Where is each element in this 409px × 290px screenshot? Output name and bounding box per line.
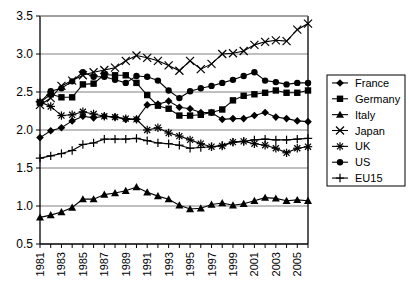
data-point-marker-circle: [69, 78, 75, 84]
data-point-marker-square: [123, 72, 129, 78]
data-point-marker-circle: [165, 87, 171, 93]
legend-item-label: UK: [355, 140, 371, 152]
data-point-marker-circle: [262, 77, 268, 83]
data-point-marker-square: [208, 109, 214, 115]
data-point-marker-square: [230, 97, 236, 103]
data-point-marker-square: [294, 90, 300, 96]
y-tick-label: 3.0: [16, 47, 33, 61]
x-tick-label: 1995: [184, 252, 196, 276]
x-tick-label: 1997: [206, 252, 218, 276]
data-point-marker-circle: [101, 74, 107, 80]
data-point-marker-asterisk: [122, 114, 130, 122]
data-point-marker-asterisk: [89, 110, 97, 118]
y-tick-label: 1.5: [16, 161, 33, 175]
data-point-marker-square: [187, 112, 193, 118]
data-point-marker-square: [337, 96, 343, 102]
data-point-marker-asterisk: [186, 136, 194, 144]
data-point-marker-square: [251, 91, 257, 97]
data-point-marker-asterisk: [272, 144, 280, 152]
data-point-marker-circle: [58, 85, 64, 91]
y-tick-label: 2.5: [16, 85, 33, 99]
data-point-marker-square: [144, 92, 150, 98]
data-point-marker-circle: [337, 159, 343, 165]
x-tick-label: 1981: [34, 252, 46, 276]
line-chart: 0.51.01.52.02.53.03.5 198119831985198719…: [0, 0, 409, 290]
data-point-marker-circle: [80, 69, 86, 75]
legend-item-label: US: [355, 156, 370, 168]
data-point-marker-circle: [273, 79, 279, 85]
data-point-marker-circle: [133, 73, 139, 79]
data-point-marker-asterisk: [143, 126, 151, 134]
x-tick-label: 1999: [227, 252, 239, 276]
data-point-marker-circle: [219, 80, 225, 86]
x-tick-label: 2003: [270, 252, 282, 276]
data-point-marker-asterisk: [132, 115, 140, 123]
data-point-marker-circle: [230, 77, 236, 83]
data-point-marker-square: [198, 112, 204, 118]
data-point-marker-asterisk: [79, 108, 87, 116]
data-point-marker-square: [90, 80, 96, 86]
data-point-marker-circle: [294, 80, 300, 86]
y-tick-label: 3.5: [16, 9, 33, 23]
data-point-marker-square: [165, 106, 171, 112]
data-point-marker-circle: [123, 80, 129, 86]
x-tick-label: 1991: [141, 252, 153, 276]
y-tick-label: 0.5: [16, 237, 33, 251]
data-point-marker-square: [219, 106, 225, 112]
data-point-marker-circle: [187, 88, 193, 94]
data-point-marker-circle: [48, 88, 54, 94]
data-point-marker-asterisk: [164, 129, 172, 137]
data-point-marker-circle: [240, 73, 246, 79]
data-point-marker-square: [273, 87, 279, 93]
data-point-marker-asterisk: [154, 124, 162, 132]
data-point-marker-square: [58, 94, 64, 100]
data-point-marker-circle: [90, 74, 96, 80]
y-tick-label: 1.0: [16, 199, 33, 213]
data-point-marker-circle: [208, 83, 214, 89]
data-point-marker-circle: [198, 85, 204, 91]
x-tick-label: 1987: [98, 252, 110, 276]
legend-item-eu15[interactable]: EU15: [332, 172, 383, 184]
data-point-marker-asterisk: [293, 144, 301, 152]
data-point-marker-square: [133, 80, 139, 86]
data-point-marker-circle: [144, 74, 150, 80]
data-point-marker-asterisk: [47, 102, 55, 110]
data-point-marker-circle: [251, 69, 257, 75]
x-tick-label: 2005: [291, 252, 303, 276]
legend-item-label: Germany: [355, 93, 401, 105]
x-tick-label: 1985: [77, 252, 89, 276]
data-point-marker-square: [240, 93, 246, 99]
x-tick-label: 1993: [163, 252, 175, 276]
chart-legend: FranceGermanyItalyJapanUKUSEU15: [327, 75, 405, 186]
data-point-marker-circle: [283, 81, 289, 87]
x-tick-label: 1983: [55, 252, 67, 276]
data-point-marker-square: [176, 112, 182, 118]
data-point-marker-circle: [112, 77, 118, 83]
data-point-marker-asterisk: [68, 111, 76, 119]
legend-item-label: EU15: [355, 172, 383, 184]
data-point-marker-circle: [176, 95, 182, 101]
y-tick-label: 2.0: [16, 123, 33, 137]
data-point-marker-asterisk: [282, 149, 290, 157]
legend-item-label: France: [355, 77, 389, 89]
x-tick-label: 1989: [120, 252, 132, 276]
data-point-marker-square: [283, 90, 289, 96]
data-point-marker-asterisk: [111, 113, 119, 121]
x-tick-label: 2001: [248, 252, 260, 276]
legend-item-label: Japan: [355, 125, 385, 137]
legend-item-label: Italy: [355, 109, 376, 121]
data-point-marker-square: [80, 81, 86, 87]
data-point-marker-square: [69, 94, 75, 100]
data-point-marker-asterisk: [57, 111, 65, 119]
data-point-marker-asterisk: [336, 142, 344, 150]
data-point-marker-circle: [155, 77, 161, 83]
data-point-marker-square: [262, 90, 268, 96]
data-point-marker-square: [155, 102, 161, 108]
data-point-marker-asterisk: [175, 132, 183, 140]
data-point-marker-asterisk: [100, 112, 108, 120]
chart-figure: 0.51.01.52.02.53.03.5 198119831985198719…: [0, 0, 409, 290]
